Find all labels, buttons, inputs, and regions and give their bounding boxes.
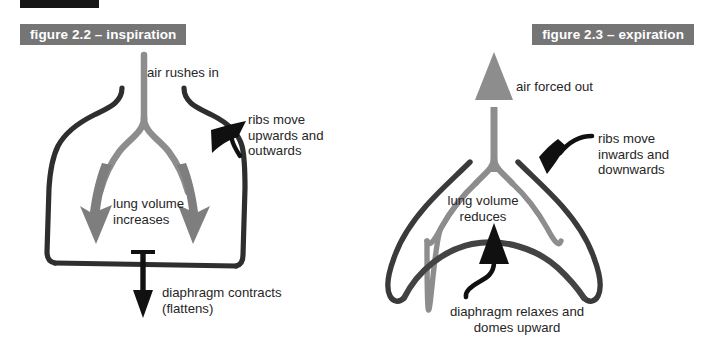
ribs-move-inwards-label: ribs move inwards and downwards bbox=[598, 131, 669, 178]
diaphragm-up-arrow bbox=[466, 223, 509, 297]
lung-volume-increases-label: lung volume increases bbox=[113, 196, 184, 227]
trachea-and-bronchi-gray bbox=[476, 128, 512, 183]
diaphragm-relaxes-label: diaphragm relaxes and domes upward bbox=[450, 304, 584, 335]
diagram-page: figure 2.2 – inspiration figure 2.3 – ex… bbox=[0, 0, 709, 343]
air-forced-out-label: air forced out bbox=[516, 79, 593, 95]
lung-volume-reduces-label: lung volume reduces bbox=[447, 193, 518, 224]
ribs-pointer-arrow bbox=[539, 136, 592, 174]
diaphragm-down-arrow bbox=[131, 251, 155, 318]
diaphragm-contracts-label: diaphragm contracts (flattens) bbox=[162, 285, 281, 316]
air-rushes-in-label: air rushes in bbox=[147, 65, 219, 81]
airflow-arrow-left bbox=[80, 163, 112, 244]
figure-2-2-artwork bbox=[47, 55, 246, 318]
ribs-move-upwards-label: ribs move upwards and outwards bbox=[248, 112, 324, 159]
